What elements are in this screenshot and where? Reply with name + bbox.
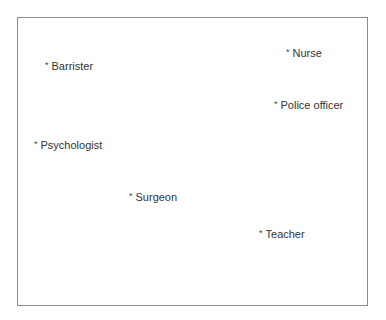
asterisk-marker-icon: * — [34, 139, 38, 149]
item-psychologist: *Psychologist — [34, 139, 102, 153]
item-nurse: *Nurse — [286, 47, 322, 61]
item-label: Barrister — [52, 60, 94, 72]
item-label: Nurse — [293, 47, 322, 59]
asterisk-marker-icon: * — [45, 60, 49, 70]
asterisk-marker-icon: * — [129, 191, 133, 201]
asterisk-marker-icon: * — [259, 228, 263, 238]
item-barrister: *Barrister — [45, 60, 93, 74]
item-label: Teacher — [266, 228, 305, 240]
asterisk-marker-icon: * — [286, 47, 290, 57]
item-label: Psychologist — [41, 139, 103, 151]
item-surgeon: *Surgeon — [129, 191, 177, 205]
item-label: Police officer — [281, 99, 344, 111]
item-teacher: *Teacher — [259, 228, 305, 242]
item-label: Surgeon — [136, 191, 178, 203]
item-police-officer: *Police officer — [274, 99, 343, 113]
asterisk-marker-icon: * — [274, 99, 278, 109]
